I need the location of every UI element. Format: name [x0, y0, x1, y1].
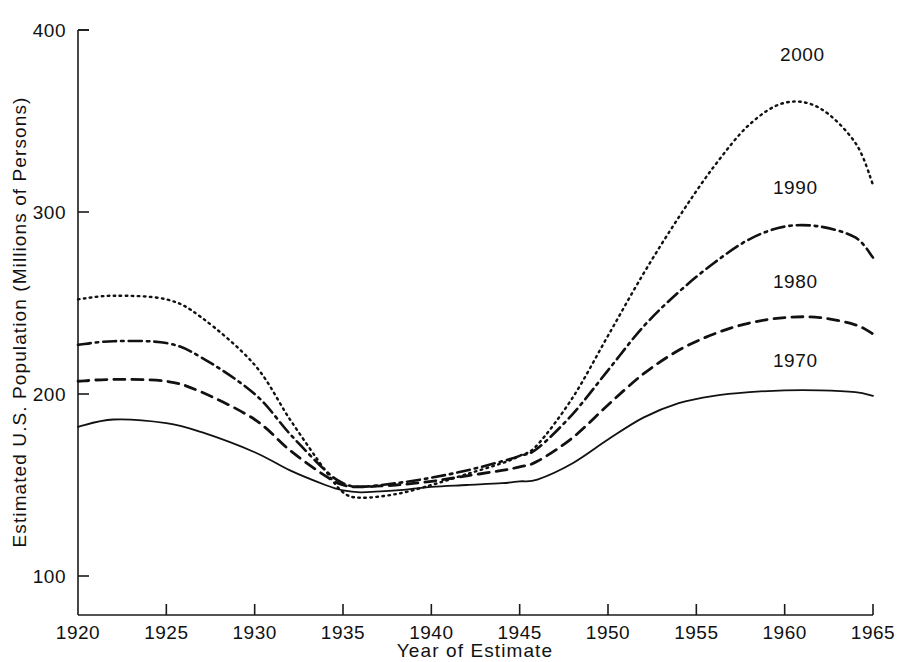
series-group	[78, 102, 873, 498]
series-label-1990: 1990	[773, 177, 818, 198]
y-tick-label-100: 100	[33, 566, 66, 587]
x-tick-label-1950: 1950	[586, 622, 630, 643]
y-axis-title: Estimated U.S. Population (Millions of P…	[9, 97, 30, 548]
y-tick-label-400: 400	[33, 20, 66, 41]
x-tick-label-1955: 1955	[674, 622, 718, 643]
series-line-1990	[78, 225, 873, 487]
chart-page: 100200300400 192019251930193519401945195…	[0, 0, 908, 662]
y-tick-label-300: 300	[33, 202, 66, 223]
x-tick-label-1925: 1925	[144, 622, 188, 643]
series-label-2000: 2000	[780, 44, 825, 65]
x-tick-label-1960: 1960	[763, 622, 807, 643]
series-line-2000	[78, 102, 873, 498]
x-tick-label-1920: 1920	[56, 622, 100, 643]
population-estimate-line-chart: 100200300400 192019251930193519401945195…	[0, 0, 908, 662]
axis-group	[78, 30, 873, 615]
y-tick-label-200: 200	[33, 384, 66, 405]
series-label-group: 2000199019801970	[773, 44, 825, 371]
x-tick-label-1965: 1965	[851, 622, 895, 643]
series-line-1980	[78, 317, 873, 487]
y-tick-group: 100200300400	[33, 20, 89, 587]
x-tick-group: 1920192519301935194019451950195519601965	[56, 604, 895, 643]
x-axis-title: Year of Estimate	[397, 640, 553, 661]
x-tick-label-1930: 1930	[233, 622, 277, 643]
x-tick-label-1935: 1935	[321, 622, 365, 643]
series-label-1970: 1970	[773, 350, 818, 371]
series-label-1980: 1980	[773, 271, 818, 292]
series-line-1970	[78, 390, 873, 492]
